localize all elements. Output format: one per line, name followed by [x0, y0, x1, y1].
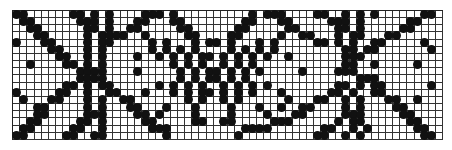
chart-cell [135, 83, 142, 90]
chart-cell [393, 68, 400, 75]
chart-cell [314, 83, 321, 90]
chart-cell-dot [407, 25, 414, 32]
chart-cell [400, 126, 407, 133]
chart-cell-dot [70, 83, 77, 90]
chart-cell-dot [185, 97, 192, 104]
chart-cell [286, 32, 293, 39]
chart-cell-dot [343, 133, 350, 140]
chart-cell [42, 75, 49, 82]
chart-cell [372, 118, 379, 125]
chart-cell [379, 18, 386, 25]
chart-cell [415, 47, 422, 54]
chart-cell [429, 32, 436, 39]
chart-cell [436, 47, 443, 54]
chart-cell [364, 111, 371, 118]
chart-cell [393, 118, 400, 125]
chart-cell [214, 18, 221, 25]
chart-cell [27, 133, 34, 140]
chart-cell [286, 68, 293, 75]
chart-cell [286, 61, 293, 68]
chart-cell [415, 104, 422, 111]
chart-cell-dot [142, 18, 149, 25]
chart-cell [178, 118, 185, 125]
chart-cell [149, 90, 156, 97]
chart-cell [307, 47, 314, 54]
chart-cell [429, 54, 436, 61]
chart-cell [293, 126, 300, 133]
chart-cell [436, 111, 443, 118]
chart-cell [393, 83, 400, 90]
chart-cell [199, 25, 206, 32]
chart-cell [386, 54, 393, 61]
chart-cell [400, 40, 407, 47]
chart-cell [199, 18, 206, 25]
chart-cell [393, 11, 400, 18]
chart-cell [27, 47, 34, 54]
chart-cell [364, 133, 371, 140]
chart-cell [393, 61, 400, 68]
chart-cell [228, 18, 235, 25]
chart-cell [293, 90, 300, 97]
chart-cell-dot [357, 54, 364, 61]
chart-cell [185, 11, 192, 18]
chart-cell [164, 25, 171, 32]
chart-cell-dot [286, 118, 293, 125]
chart-cell [171, 126, 178, 133]
chart-cell [422, 25, 429, 32]
chart-cell [214, 126, 221, 133]
chart-cell [199, 133, 206, 140]
chart-cell [113, 11, 120, 18]
chart-cell [257, 18, 264, 25]
chart-cell [415, 75, 422, 82]
chart-cell [27, 40, 34, 47]
chart-cell [63, 18, 70, 25]
chart-cell-dot [357, 32, 364, 39]
chart-cell-dot [372, 11, 379, 18]
chart-cell [70, 25, 77, 32]
chart-cell [386, 133, 393, 140]
chart-cell [314, 25, 321, 32]
chart-cell-dot [321, 133, 328, 140]
knitting-chart-grid [12, 10, 443, 140]
chart-cell-dot [329, 126, 336, 133]
chart-cell [13, 54, 20, 61]
chart-cell [35, 133, 42, 140]
chart-cell [42, 83, 49, 90]
chart-cell-dot [207, 54, 214, 61]
chart-cell [422, 97, 429, 104]
chart-cell-dot [99, 133, 106, 140]
chart-cell [436, 68, 443, 75]
chart-cell [27, 97, 34, 104]
chart-cell [286, 75, 293, 82]
chart-cell [42, 133, 49, 140]
chart-cell [171, 104, 178, 111]
chart-cell [379, 111, 386, 118]
chart-cell [35, 126, 42, 133]
chart-cell [422, 18, 429, 25]
chart-cell [135, 40, 142, 47]
chart-cell [293, 11, 300, 18]
chart-cell [436, 11, 443, 18]
chart-cell [35, 83, 42, 90]
chart-cell [300, 47, 307, 54]
chart-cell-dot [300, 111, 307, 118]
chart-cell [264, 61, 271, 68]
chart-cell [300, 75, 307, 82]
chart-cell [393, 40, 400, 47]
chart-cell-dot [321, 97, 328, 104]
chart-cell [372, 18, 379, 25]
chart-cell [278, 126, 285, 133]
chart-cell [321, 47, 328, 54]
chart-cell [113, 126, 120, 133]
chart-cell [386, 61, 393, 68]
chart-cell-dot [300, 68, 307, 75]
chart-cell [42, 68, 49, 75]
chart-cell [214, 133, 221, 140]
chart-cell [300, 118, 307, 125]
chart-cell [286, 133, 293, 140]
chart-cell [121, 133, 128, 140]
chart-cell [221, 126, 228, 133]
chart-cell [372, 97, 379, 104]
chart-cell-dot [264, 54, 271, 61]
chart-cell-dot [415, 18, 422, 25]
